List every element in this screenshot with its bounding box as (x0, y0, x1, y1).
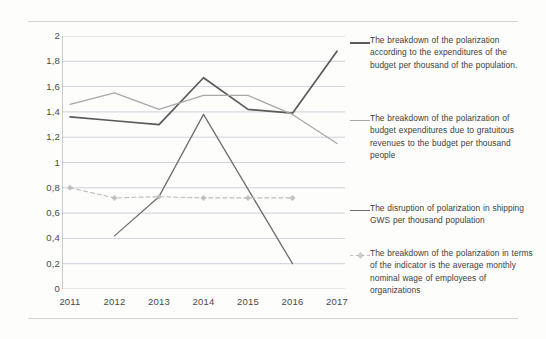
y-axis-tick-label: 0,8 (46, 183, 60, 193)
plot-area (62, 36, 345, 289)
y-axis-tick-label: 1,4 (46, 107, 60, 117)
x-axis-tick-label: 2013 (142, 296, 176, 307)
legend-entry-2[interactable]: The breakdown of the polarization of bud… (349, 112, 535, 162)
legend-swatch-icon (349, 205, 370, 216)
chart-legend: The breakdown of the polarization accord… (349, 34, 535, 318)
y-axis-tick-label: 1,2 (46, 132, 60, 142)
y-axis-tick-label: 2 (55, 31, 60, 41)
legend-label: The breakdown of the polarization in ter… (370, 247, 535, 297)
plot-svg (62, 36, 345, 289)
series-marker-4 (245, 195, 251, 201)
series-marker-4 (201, 195, 207, 201)
legend-entry-3[interactable]: The disruption of polarization in shippi… (349, 202, 535, 227)
x-axis-tick-label: 2015 (231, 296, 265, 307)
series-marker-4 (290, 195, 296, 201)
x-axis-tick-label: 2014 (187, 296, 221, 307)
y-axis: 00,20,40,60,811,21,41,61,82 (22, 28, 60, 298)
series-line-2 (70, 93, 337, 144)
series-marker-4 (112, 195, 118, 201)
x-axis-tick-label: 2016 (276, 296, 310, 307)
series-line-1 (70, 51, 337, 124)
legend-swatch-icon (349, 250, 370, 261)
x-axis: 2011201220132014201520162017 (55, 296, 355, 314)
y-axis-tick-label: 1,6 (46, 82, 60, 92)
y-axis-tick-label: 1 (55, 158, 60, 168)
x-axis-tick-label: 2011 (53, 296, 87, 307)
x-axis-tick-label: 2012 (98, 296, 132, 307)
legend-label: The breakdown of the polarization accord… (370, 34, 535, 71)
y-axis-tick-label: 0,2 (46, 259, 60, 269)
legend-label: The disruption of polarization in shippi… (370, 202, 535, 227)
legend-label: The breakdown of the polarization of bud… (370, 112, 535, 162)
y-axis-tick-label: 0 (55, 284, 60, 294)
y-axis-tick-label: 1,8 (46, 56, 60, 66)
scan-rule-bottom (28, 318, 518, 319)
scan-rule-top (28, 21, 518, 22)
series-marker-4 (67, 185, 73, 191)
series-line-4 (70, 188, 293, 198)
legend-entry-1[interactable]: The breakdown of the polarization accord… (349, 34, 535, 71)
legend-swatch-icon (349, 115, 370, 126)
y-axis-tick-label: 0,4 (46, 233, 60, 243)
legend-entry-4[interactable]: The breakdown of the polarization in ter… (349, 247, 535, 297)
chart-figure: 00,20,40,60,811,21,41,61,82 201120122013… (0, 0, 546, 339)
y-axis-tick-label: 0,6 (46, 208, 60, 218)
legend-swatch-icon (349, 37, 370, 48)
